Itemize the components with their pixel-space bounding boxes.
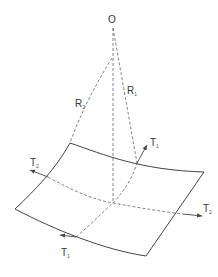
t-label-right: T2 [203,203,212,215]
t-label-upper-right: T1 [150,137,159,149]
r2-label: R2 [75,98,85,110]
surface-patch [15,143,204,256]
origin-label: O [108,14,116,25]
tangent-arrow-upper-right [137,145,147,163]
tangent-arrow-left [30,170,48,177]
t-label-left: T2 [30,157,39,169]
principal-curve-t1 [76,163,137,237]
principal-curve-t2 [48,177,183,214]
tangent-arrow-right [183,214,202,216]
curvature-diagram: O R2 R1 T1 T2 T2 T1 [0,0,218,277]
r1-label: R1 [127,85,137,97]
t-label-bottom: T1 [61,247,70,259]
